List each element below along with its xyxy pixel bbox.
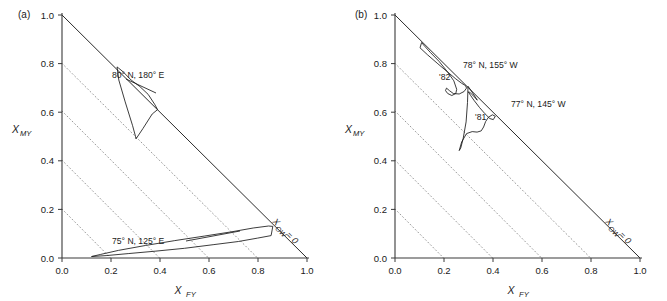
y-tick-label-b-5: 1.0 [374,10,387,21]
panel-a-plot: (a) 0.0 0.2 [0,0,334,301]
isolines-group-b [395,63,591,258]
y-tick-label-b-2: 0.4 [374,155,387,166]
annot-75n-125e: 75° N, 125° E [112,236,165,246]
x-tick-label-b-1: 0.2 [437,265,450,276]
y-tick-label-a-5: 1.0 [41,10,54,21]
y-tick-label-a-0: 0.0 [41,253,54,264]
diagonal-xow-zero-b [395,15,640,258]
x-tick-label-b-4: 0.8 [584,265,597,276]
y-tick-label-b-3: 0.6 [374,107,387,118]
ternary-ice-type-figure: (a) 0.0 0.2 [0,0,667,301]
y-axis-title-a-main: X [11,123,20,135]
diagonal-label-a: X OW = 0 [268,216,300,248]
panel-b-tag: (b) [355,9,367,20]
y-tick-label-b-1: 0.2 [374,204,387,215]
y-axis-title-b-sub: MY [353,129,365,138]
x-tick-label-a-1: 0.2 [104,265,117,276]
panel-a: (a) 0.0 0.2 [0,0,334,301]
isoline-b-ow-02 [395,63,591,258]
x-axis-title-a-main: X [173,284,182,296]
y-axis-title-b: X MY [344,123,365,138]
x-tick-label-a-4: 0.8 [251,265,264,276]
x-tick-label-b-3: 0.6 [535,265,548,276]
x-tick-label-a-2: 0.4 [153,265,166,276]
diagonal-label-b: X OW = 0 [601,216,633,248]
x-tick-label-b-0: 0.0 [388,265,401,276]
annot-year-82: '82 [439,72,450,82]
x-axis-title-b-sub: FY [519,290,530,299]
isoline-b-ow-06 [395,160,493,258]
y-axis-title-a: X MY [11,123,32,138]
isolines-group-a [62,63,258,258]
annot-year-81: '81 [475,112,486,122]
annot-78n-155w: 78° N, 155° W [463,60,519,70]
y-tick-label-a-4: 0.8 [41,58,54,69]
annot-77n-145w: 77° N, 145° W [511,99,567,109]
x-tick-label-a-3: 0.6 [202,265,215,276]
y-axis-title-b-main: X [344,123,353,135]
diagonal-xow-zero-a [62,15,307,258]
panel-b-plot: (b) 0.0 0.2 0.4 0.6 [333,0,667,301]
y-tick-label-a-3: 0.6 [41,107,54,118]
x-axis-title-b-main: X [506,284,515,296]
y-tick-label-a-2: 0.4 [41,155,54,166]
track-78n-155w [420,43,467,96]
y-ticks-b [391,15,395,258]
y-tick-label-b-4: 0.8 [374,58,387,69]
x-tick-label-a-5: 1.0 [300,265,313,276]
y-tick-label-a-1: 0.2 [41,204,54,215]
x-ticks-a [62,258,307,262]
y-tick-label-b-0: 0.0 [374,253,387,264]
x-tick-label-b-2: 0.4 [486,265,499,276]
panel-b: (b) 0.0 0.2 0.4 0.6 [333,0,667,301]
panel-a-tag: (a) [18,9,30,20]
x-axis-title-a: X FY [173,284,196,299]
leader-75n-125e [186,231,240,241]
x-tick-label-a-0: 0.0 [55,265,68,276]
x-axis-title-b: X FY [506,284,529,299]
y-ticks-a [58,15,62,258]
y-axis-title-a-sub: MY [20,129,32,138]
x-axis-title-a-sub: FY [186,290,197,299]
x-tick-label-b-5: 1.0 [633,265,646,276]
leader-80n-180e [126,79,156,93]
isoline-ow-02 [62,63,258,258]
isoline-ow-08 [62,209,111,258]
x-ticks-b [395,258,640,262]
isoline-b-ow-08 [395,209,444,258]
annot-80n-180e: 80° N, 180° E [112,70,165,80]
